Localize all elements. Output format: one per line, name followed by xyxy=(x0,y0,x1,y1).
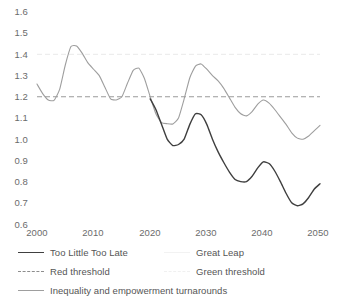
legend-label: Great Leap xyxy=(196,247,244,258)
legend-row: Too Little Too Late Great Leap xyxy=(18,243,328,262)
chart-legend: Too Little Too Late Great Leap Red thres… xyxy=(18,243,328,300)
legend-row: Inequality and empowerment turnarounds xyxy=(18,281,328,300)
legend-label: Green threshold xyxy=(196,266,265,277)
legend-item-too-little-too-late[interactable]: Too Little Too Late xyxy=(18,247,164,258)
legend-item-great-leap[interactable]: Great Leap xyxy=(164,247,244,258)
legend-item-inequality-and-empowerment-turnarounds[interactable]: Inequality and empowerment turnarounds xyxy=(18,285,227,296)
legend-item-green-threshold[interactable]: Green threshold xyxy=(164,266,265,277)
x-tick-label: 2030 xyxy=(186,227,226,238)
legend-label: Inequality and empowerment turnarounds xyxy=(50,285,227,296)
legend-swatch-solid-line-icon xyxy=(18,286,44,295)
legend-swatch-dashed-line-icon xyxy=(164,267,190,276)
legend-swatch-solid-line-icon xyxy=(164,248,190,257)
legend-label: Red threshold xyxy=(50,266,110,277)
line-chart: 1.6 1.5 1.4 1.3 1.2 1.1 1.0 0.9 0.8 0.7 … xyxy=(0,0,338,302)
legend-swatch-solid-line-icon xyxy=(18,248,44,257)
legend-swatch-dashed-line-icon xyxy=(18,267,44,276)
series-line-too-little-too-late xyxy=(150,99,320,206)
x-tick-label: 2010 xyxy=(73,227,113,238)
x-tick-label: 2020 xyxy=(130,227,170,238)
series-lines xyxy=(37,45,320,205)
threshold-lines xyxy=(37,54,320,96)
x-tick-label: 2000 xyxy=(17,227,57,238)
x-tick-label: 2040 xyxy=(242,227,282,238)
legend-label: Too Little Too Late xyxy=(50,247,128,258)
legend-row: Red threshold Green threshold xyxy=(18,262,328,281)
legend-item-red-threshold[interactable]: Red threshold xyxy=(18,266,164,277)
x-tick-label: 2050 xyxy=(298,227,338,238)
series-line-inequality-and-empowerment-turnarounds xyxy=(37,45,320,139)
